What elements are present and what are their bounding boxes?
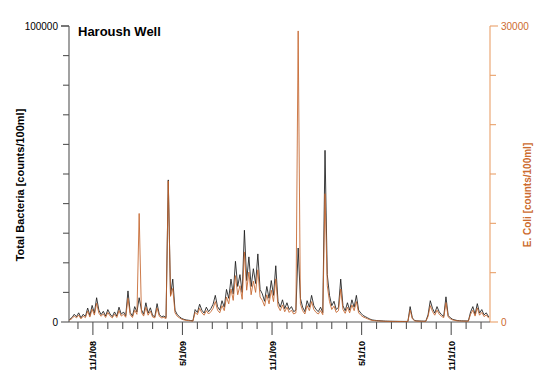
x-axis-tick-label: 11/1/10 — [447, 341, 457, 371]
x-axis-tick-label: 5/1/10 — [357, 341, 367, 366]
chart-background — [0, 0, 547, 388]
right-axis-tick-label: 0 — [501, 317, 507, 328]
chart-figure: 0100000 030000 11/1/085/1/0911/1/095/1/1… — [0, 0, 547, 388]
bacteria-timeseries-chart: 0100000 030000 11/1/085/1/0911/1/095/1/1… — [0, 0, 547, 388]
right-axis-tick-label: 30000 — [501, 21, 529, 32]
chart-title: Haroush Well — [78, 24, 161, 39]
x-axis-tick-label: 11/1/08 — [88, 341, 98, 371]
left-axis-label: Total Bacteria [counts/100ml] — [14, 108, 26, 261]
left-axis-tick-label: 100000 — [25, 21, 59, 32]
left-axis-tick-label: 0 — [52, 317, 58, 328]
x-axis-tick-label: 5/1/09 — [178, 341, 188, 366]
x-axis-tick-label: 11/1/09 — [268, 341, 278, 371]
right-axis-label: E. Coli [counts/100ml] — [522, 143, 533, 247]
